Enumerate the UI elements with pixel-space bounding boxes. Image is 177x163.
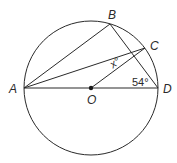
segment-ab — [24, 24, 110, 88]
angle-x-label: x° — [106, 54, 122, 70]
center-point-o — [89, 86, 93, 90]
label-a: A — [8, 82, 17, 96]
segment-ac — [24, 48, 145, 88]
label-o: O — [87, 93, 96, 107]
circle-diagram: B C A D O x° 54° — [0, 0, 177, 163]
label-d: D — [163, 82, 172, 96]
label-b: B — [108, 8, 116, 22]
angle-54-label: 54° — [132, 76, 149, 88]
label-c: C — [150, 39, 159, 53]
